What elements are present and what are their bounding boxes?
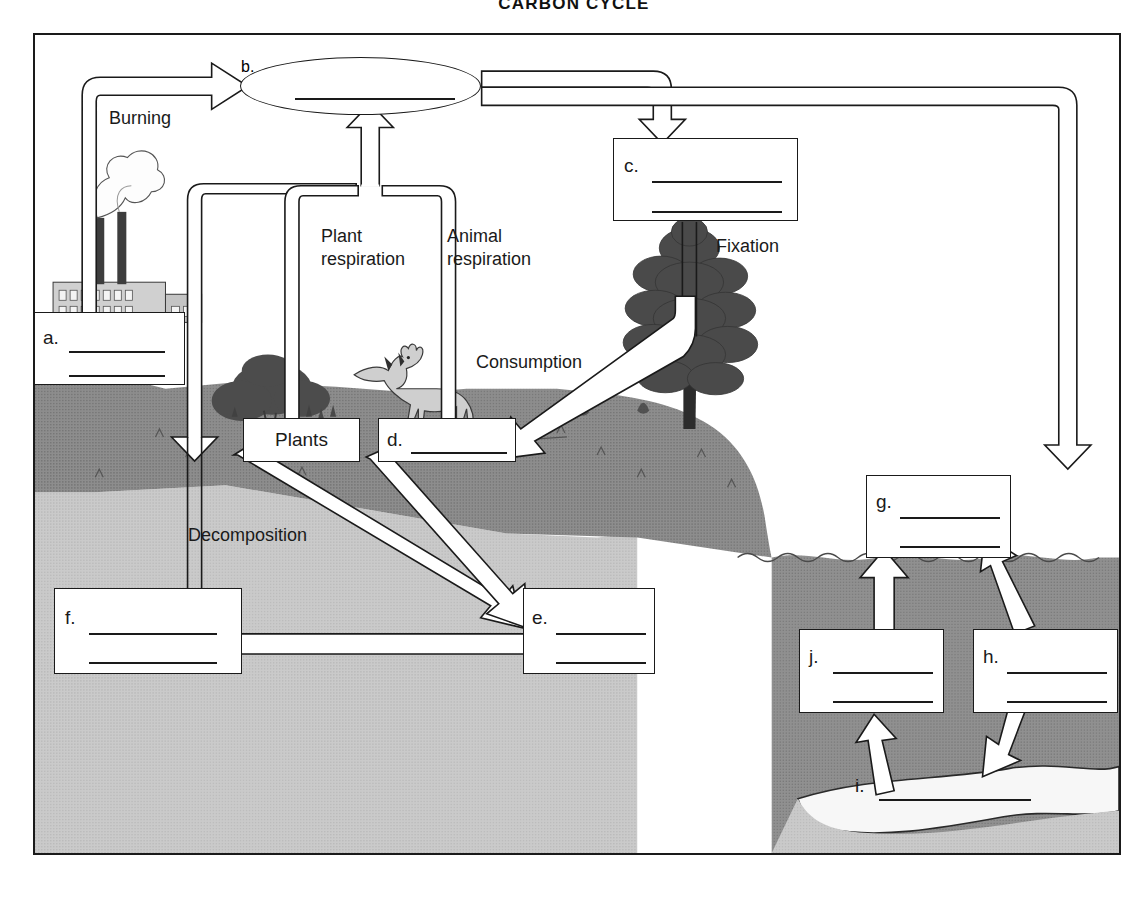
label-plant-respiration: Plant respiration	[321, 225, 405, 270]
answer-line-b-1[interactable]	[295, 98, 455, 100]
answer-line-e-1[interactable]	[556, 633, 646, 635]
answer-tag-i: i.	[855, 775, 865, 797]
answer-box-g[interactable]: g.	[866, 475, 1011, 558]
answer-tag-a: a.	[43, 327, 59, 349]
answer-line-h-1[interactable]	[1007, 672, 1107, 674]
answer-line-e-2[interactable]	[556, 662, 646, 664]
answer-box-h[interactable]: h.	[973, 629, 1118, 713]
answer-box-c[interactable]: c.	[613, 138, 798, 221]
answer-line-h-2[interactable]	[1007, 701, 1107, 703]
answer-tag-e: e.	[532, 607, 548, 629]
answer-line-c-2[interactable]	[652, 211, 782, 213]
answer-tag-g: g.	[876, 491, 892, 513]
answer-tag-d: d.	[387, 429, 403, 451]
plants-box[interactable]: Plants	[243, 418, 360, 462]
answer-line-a-2[interactable]	[69, 375, 165, 377]
answer-box-j[interactable]: j.	[799, 629, 944, 713]
answer-line-g-1[interactable]	[900, 517, 1000, 519]
diagram-frame: Burning Plant respiration Animal respira…	[33, 33, 1121, 855]
label-burning: Burning	[109, 107, 171, 130]
answer-line-j-2[interactable]	[833, 701, 933, 703]
answer-line-f-2[interactable]	[89, 662, 217, 664]
label-consumption: Consumption	[476, 351, 582, 374]
answer-box-b[interactable]: b.	[240, 57, 481, 115]
label-fixation: Fixation	[716, 235, 779, 258]
plants-box-label: Plants	[275, 429, 328, 451]
answer-box-f[interactable]: f.	[54, 588, 242, 674]
answer-tag-f: f.	[65, 607, 76, 629]
answer-line-f-1[interactable]	[89, 633, 217, 635]
scenery-illustration	[35, 35, 1119, 853]
answer-box-d[interactable]: d.	[378, 418, 516, 462]
answer-tag-b: b.	[241, 58, 254, 75]
answer-line-d-1[interactable]	[411, 452, 507, 454]
answer-box-a[interactable]: a.	[34, 312, 185, 385]
answer-tag-j: j.	[809, 646, 819, 668]
factory-illustration	[53, 151, 202, 337]
answer-line-i-1[interactable]	[879, 799, 1031, 801]
answer-tag-h: h.	[983, 646, 999, 668]
answer-box-i[interactable]: i.	[855, 773, 1055, 803]
answer-line-a-1[interactable]	[69, 351, 165, 353]
label-decomposition: Decomposition	[188, 524, 307, 547]
answer-box-e[interactable]: e.	[523, 588, 655, 674]
page-title: CARBON CYCLE	[0, 0, 1148, 14]
answer-tag-c: c.	[624, 155, 639, 177]
answer-line-g-2[interactable]	[900, 546, 1000, 548]
label-animal-respiration: Animal respiration	[447, 225, 531, 270]
answer-line-j-1[interactable]	[833, 672, 933, 674]
carbon-cycle-worksheet: CARBON CYCLE	[0, 0, 1148, 899]
answer-line-c-1[interactable]	[652, 181, 782, 183]
